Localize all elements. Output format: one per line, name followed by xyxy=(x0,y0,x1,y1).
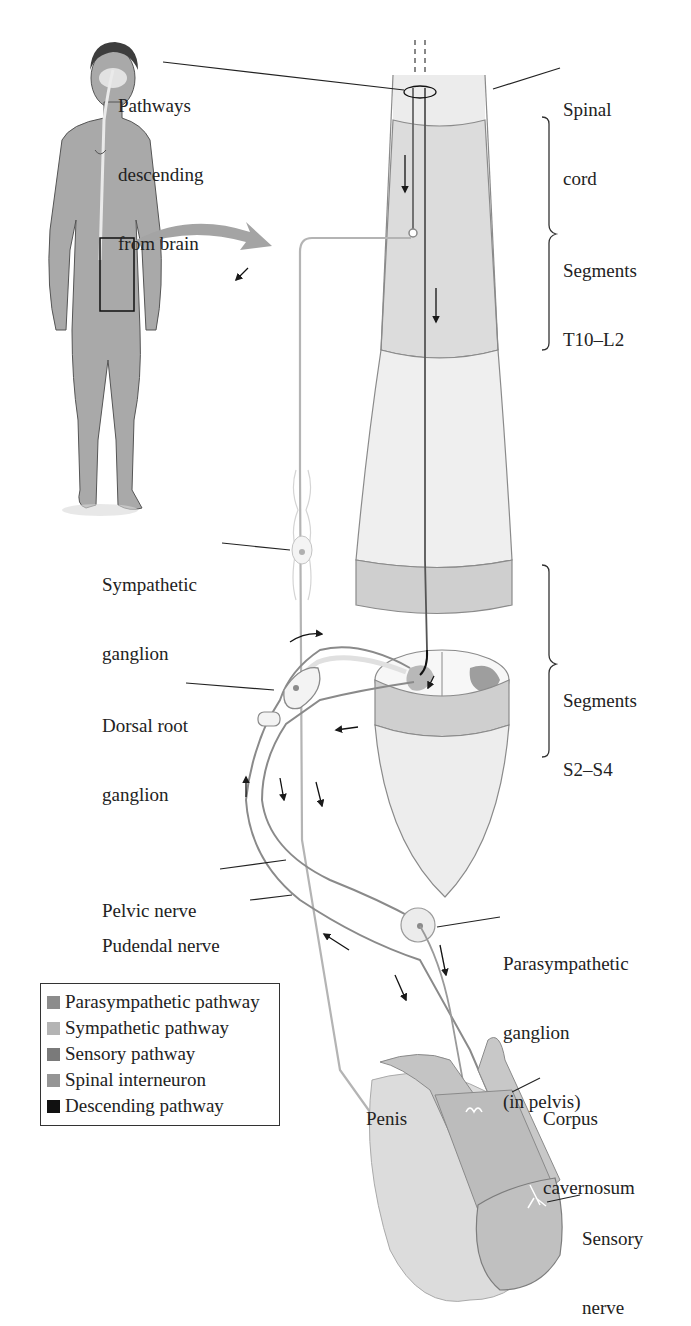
label-dorsal-root-ganglion: Dorsal root ganglion xyxy=(102,668,188,852)
legend-item-parasympathetic: Parasympathetic pathway xyxy=(47,989,273,1015)
legend: Parasympathetic pathway Sympathetic path… xyxy=(40,983,280,1126)
legend-swatch-icon xyxy=(47,1048,60,1061)
label-pathways-descending: Pathways descending from brain xyxy=(118,48,203,301)
label-penis: Penis xyxy=(366,1061,407,1176)
legend-item-sympathetic: Sympathetic pathway xyxy=(47,1015,273,1041)
segment-brackets xyxy=(542,117,556,757)
legend-item-sensory: Sensory pathway xyxy=(47,1041,273,1067)
legend-swatch-icon xyxy=(47,1100,60,1113)
legend-swatch-icon xyxy=(47,1074,60,1087)
label-spinal-cord: Spinal cord xyxy=(563,52,612,236)
label-sensory-nerve-endings: Sensory nerve endings xyxy=(582,1181,643,1326)
figure-canvas: Pathways descending from brain Spinal co… xyxy=(0,0,691,1326)
legend-swatch-icon xyxy=(47,996,60,1009)
legend-swatch-icon xyxy=(47,1022,60,1035)
legend-item-descending: Descending pathway xyxy=(47,1093,273,1119)
legend-item-interneuron: Spinal interneuron xyxy=(47,1067,273,1093)
label-segments-s2-s4: Segments S2–S4 xyxy=(563,643,637,827)
spinal-cord xyxy=(356,40,512,897)
label-segments-t10-l2: Segments T10–L2 xyxy=(563,213,637,397)
